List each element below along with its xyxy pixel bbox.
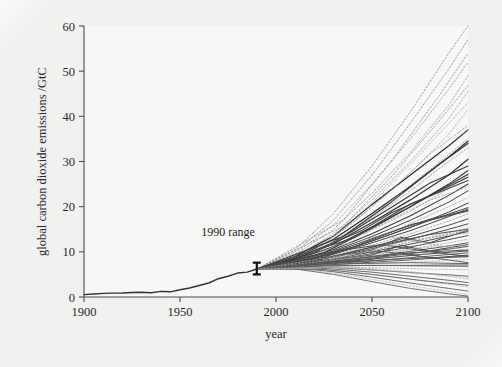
x-axis-tick-label: 2050: [360, 305, 385, 319]
x-axis-tick-label: 2100: [456, 305, 481, 319]
chart-canvas: 1990 range 01020304050601900195020002050…: [0, 0, 502, 367]
y-axis-tick-label: 40: [63, 110, 76, 124]
y-axis-tick-label: 20: [63, 200, 76, 214]
y-axis-tick-label: 10: [63, 245, 76, 259]
x-axis-tick-label: 2000: [264, 305, 289, 319]
y-axis-tick-label: 30: [63, 155, 76, 169]
y-axis-title: global carbon dioxide emissions /GtC: [35, 67, 49, 256]
y-axis-tick-label: 50: [63, 65, 76, 79]
x-axis-tick-label: 1900: [72, 305, 97, 319]
y-axis-tick-label: 0: [69, 291, 75, 305]
range-annotation-label: 1990 range: [201, 225, 255, 239]
y-axis-tick-label: 60: [63, 20, 76, 34]
x-axis-title: year: [265, 327, 287, 341]
figure-container: 1990 range 01020304050601900195020002050…: [0, 0, 502, 367]
x-axis-tick-label: 1950: [168, 305, 193, 319]
